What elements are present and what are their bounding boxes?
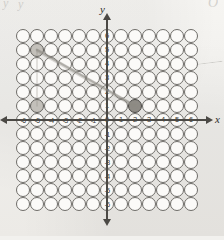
grid-bubble[interactable]	[114, 169, 128, 183]
grid-bubble[interactable]	[156, 141, 170, 155]
grid-bubble[interactable]	[86, 43, 100, 57]
grid-bubble[interactable]	[128, 183, 142, 197]
grid-bubble[interactable]	[44, 183, 58, 197]
grid-bubble[interactable]	[114, 183, 128, 197]
grid-bubble[interactable]	[30, 155, 44, 169]
grid-bubble[interactable]	[128, 99, 142, 113]
grid-bubble[interactable]	[142, 169, 156, 183]
grid-bubble[interactable]	[128, 85, 142, 99]
grid-bubble[interactable]	[114, 29, 128, 43]
grid-bubble[interactable]	[142, 99, 156, 113]
grid-bubble[interactable]	[44, 197, 58, 211]
grid-bubble[interactable]	[86, 197, 100, 211]
grid-bubble[interactable]	[170, 57, 184, 71]
grid-bubble[interactable]	[128, 197, 142, 211]
grid-bubble[interactable]	[170, 155, 184, 169]
grid-bubble[interactable]	[30, 183, 44, 197]
grid-bubble[interactable]	[128, 29, 142, 43]
grid-bubble[interactable]	[128, 57, 142, 71]
grid-bubble[interactable]	[16, 183, 30, 197]
grid-bubble[interactable]	[58, 127, 72, 141]
grid-bubble[interactable]	[44, 85, 58, 99]
grid-bubble[interactable]	[184, 141, 198, 155]
grid-bubble[interactable]	[128, 71, 142, 85]
grid-bubble[interactable]	[16, 71, 30, 85]
grid-bubble[interactable]	[58, 43, 72, 57]
grid-bubble[interactable]	[44, 57, 58, 71]
grid-bubble[interactable]	[114, 43, 128, 57]
grid-bubble[interactable]	[184, 57, 198, 71]
grid-bubble[interactable]	[16, 29, 30, 43]
grid-bubble[interactable]	[72, 71, 86, 85]
grid-bubble[interactable]	[72, 29, 86, 43]
grid-bubble[interactable]	[44, 71, 58, 85]
grid-bubble[interactable]	[184, 197, 198, 211]
grid-bubble[interactable]	[156, 99, 170, 113]
grid-bubble[interactable]	[16, 43, 30, 57]
grid-bubble[interactable]	[30, 71, 44, 85]
grid-bubble[interactable]	[86, 99, 100, 113]
grid-bubble[interactable]	[30, 29, 44, 43]
grid-bubble[interactable]	[142, 197, 156, 211]
grid-bubble[interactable]	[156, 127, 170, 141]
grid-bubble[interactable]	[128, 169, 142, 183]
grid-bubble[interactable]	[114, 197, 128, 211]
grid-bubble[interactable]	[30, 197, 44, 211]
grid-bubble[interactable]	[16, 197, 30, 211]
grid-bubble[interactable]	[170, 29, 184, 43]
grid-bubble[interactable]	[142, 57, 156, 71]
grid-bubble[interactable]	[72, 169, 86, 183]
grid-bubble[interactable]	[184, 99, 198, 113]
grid-bubble[interactable]	[86, 183, 100, 197]
grid-bubble[interactable]	[142, 29, 156, 43]
grid-bubble[interactable]	[72, 141, 86, 155]
grid-bubble[interactable]	[30, 169, 44, 183]
grid-bubble[interactable]	[16, 127, 30, 141]
grid-bubble[interactable]	[58, 183, 72, 197]
grid-bubble[interactable]	[170, 85, 184, 99]
grid-bubble[interactable]	[142, 43, 156, 57]
grid-bubble[interactable]	[72, 99, 86, 113]
grid-bubble[interactable]	[184, 85, 198, 99]
grid-bubble[interactable]	[86, 169, 100, 183]
grid-bubble[interactable]	[142, 127, 156, 141]
grid-bubble[interactable]	[86, 71, 100, 85]
grid-bubble[interactable]	[44, 127, 58, 141]
grid-bubble[interactable]	[16, 169, 30, 183]
grid-bubble[interactable]	[114, 155, 128, 169]
grid-bubble[interactable]	[44, 155, 58, 169]
grid-bubble[interactable]	[128, 155, 142, 169]
grid-bubble[interactable]	[156, 57, 170, 71]
grid-bubble[interactable]	[156, 197, 170, 211]
grid-bubble[interactable]	[184, 71, 198, 85]
grid-bubble[interactable]	[58, 141, 72, 155]
grid-bubble[interactable]	[86, 127, 100, 141]
grid-bubble[interactable]	[170, 141, 184, 155]
grid-bubble[interactable]	[114, 85, 128, 99]
grid-bubble[interactable]	[58, 85, 72, 99]
grid-bubble[interactable]	[58, 29, 72, 43]
grid-bubble[interactable]	[72, 197, 86, 211]
grid-bubble[interactable]	[58, 57, 72, 71]
grid-bubble[interactable]	[86, 85, 100, 99]
grid-bubble[interactable]	[184, 29, 198, 43]
grid-bubble[interactable]	[16, 141, 30, 155]
grid-bubble[interactable]	[58, 155, 72, 169]
grid-bubble[interactable]	[44, 169, 58, 183]
grid-bubble[interactable]	[128, 127, 142, 141]
grid-bubble[interactable]	[86, 141, 100, 155]
grid-bubble[interactable]	[142, 71, 156, 85]
grid-bubble[interactable]	[184, 169, 198, 183]
grid-bubble[interactable]	[184, 43, 198, 57]
grid-bubble[interactable]	[86, 155, 100, 169]
grid-bubble[interactable]	[114, 141, 128, 155]
grid-bubble[interactable]	[156, 85, 170, 99]
grid-bubble[interactable]	[44, 43, 58, 57]
grid-bubble[interactable]	[30, 57, 44, 71]
grid-bubble[interactable]	[114, 71, 128, 85]
grid-bubble[interactable]	[44, 141, 58, 155]
grid-bubble[interactable]	[142, 155, 156, 169]
grid-bubble[interactable]	[72, 85, 86, 99]
grid-bubble[interactable]	[44, 29, 58, 43]
grid-bubble[interactable]	[184, 155, 198, 169]
